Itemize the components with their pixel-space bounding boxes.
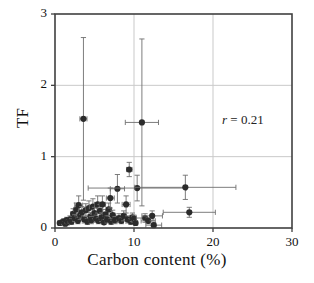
y-axis-label: TF xyxy=(13,88,33,148)
marker xyxy=(114,186,120,192)
marker xyxy=(80,116,86,122)
data-point xyxy=(163,207,215,217)
x-tick-label: 0 xyxy=(41,234,69,250)
x-tick-label: 20 xyxy=(199,234,227,250)
marker xyxy=(149,213,155,219)
correlation-symbol: r xyxy=(222,112,227,127)
data-point xyxy=(126,162,132,176)
y-tick-label: 3 xyxy=(25,5,47,21)
x-tick-label: 10 xyxy=(120,234,148,250)
data-point xyxy=(125,39,158,206)
data-points-layer xyxy=(57,38,236,229)
correlation-value: 0.21 xyxy=(241,112,264,127)
marker xyxy=(126,166,132,172)
scatter-plot-figure: 01020300123 Carbon content (%) TF r = 0.… xyxy=(0,0,314,283)
marker xyxy=(76,202,82,208)
correlation-equals: = xyxy=(230,112,237,127)
marker xyxy=(107,195,113,201)
x-tick-label: 30 xyxy=(278,234,306,250)
data-point xyxy=(135,175,236,199)
marker xyxy=(106,206,112,212)
x-axis-label: Carbon content (%) xyxy=(0,250,314,270)
y-tick-label: 1 xyxy=(25,148,47,164)
marker xyxy=(99,201,105,207)
marker xyxy=(123,201,129,207)
data-point xyxy=(80,38,87,201)
data-point xyxy=(132,220,138,226)
marker xyxy=(139,119,145,125)
marker xyxy=(182,184,188,190)
correlation-annotation: r = 0.21 xyxy=(222,112,264,128)
marker xyxy=(132,220,138,226)
data-point xyxy=(88,175,186,201)
y-tick-label: 0 xyxy=(25,219,47,235)
marker xyxy=(186,209,192,215)
